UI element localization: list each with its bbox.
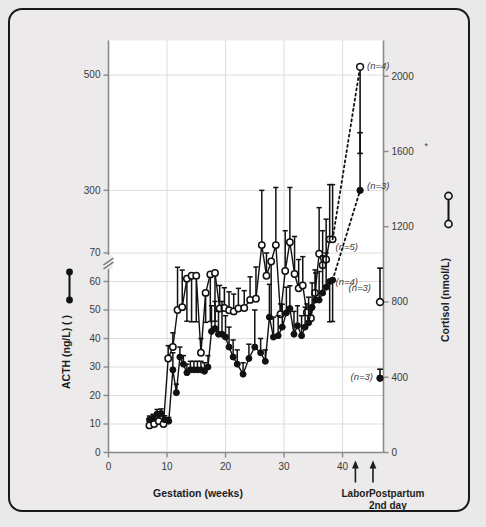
svg-text:10: 10 (161, 461, 173, 472)
svg-text:0: 0 (392, 447, 398, 458)
svg-text:20: 20 (220, 461, 232, 472)
svg-text:Labor: Labor (342, 488, 370, 499)
svg-text:(n=3): (n=3) (351, 371, 373, 382)
svg-text:40: 40 (89, 333, 101, 344)
figure-container: 010203040506070300500 040080012001600200… (0, 0, 486, 527)
svg-text:0: 0 (106, 461, 112, 472)
svg-text:2nd day: 2nd day (369, 500, 407, 511)
svg-text:40: 40 (337, 461, 349, 472)
svg-text:60: 60 (89, 276, 101, 287)
svg-text:10: 10 (89, 418, 101, 429)
svg-text:500: 500 (84, 69, 101, 80)
svg-text:800: 800 (392, 296, 409, 307)
svg-text:30: 30 (278, 461, 290, 472)
svg-text:(n=5): (n=5) (336, 241, 358, 252)
chart-svg: 010203040506070300500 040080012001600200… (0, 0, 486, 527)
svg-text:Cortisol (nmol/L): Cortisol (nmol/L) (439, 258, 451, 342)
svg-text:ACTH (ng/L) ( ): ACTH (ng/L) ( ) (60, 315, 72, 389)
svg-text:(n=4): (n=4) (336, 276, 358, 287)
svg-text:1600: 1600 (392, 146, 415, 157)
svg-text:1200: 1200 (392, 221, 415, 232)
x-axis-ticks: 010203040 (106, 453, 349, 472)
svg-text:400: 400 (392, 372, 409, 383)
svg-text:(n=3): (n=3) (367, 180, 389, 191)
y-axis-right-ticks: 0400800120016002000* (384, 71, 429, 458)
svg-text:20: 20 (89, 390, 101, 401)
svg-text:50: 50 (89, 304, 101, 315)
svg-text:Gestation (weeks): Gestation (weeks) (153, 487, 243, 499)
svg-text:*: * (425, 141, 429, 151)
svg-text:300: 300 (84, 185, 101, 196)
svg-text:70: 70 (89, 247, 101, 258)
axis-annotations: LaborPostpartum2nd day (342, 461, 425, 511)
svg-text:(n=4): (n=4) (367, 60, 389, 71)
chart-canvas: 010203040506070300500 040080012001600200… (0, 0, 486, 527)
svg-text:0: 0 (95, 447, 101, 458)
svg-text:30: 30 (89, 361, 101, 372)
svg-text:2000: 2000 (392, 71, 415, 82)
svg-text:Postpartum: Postpartum (369, 488, 425, 499)
y-axis-break-icon (104, 255, 114, 269)
